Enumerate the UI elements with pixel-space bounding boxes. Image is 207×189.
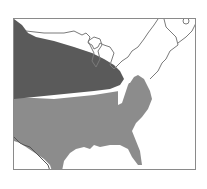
island (183, 19, 189, 24)
map-frame (13, 18, 196, 170)
maritime-coast (178, 23, 196, 43)
east-coast (150, 19, 178, 79)
map-svg (14, 19, 196, 170)
